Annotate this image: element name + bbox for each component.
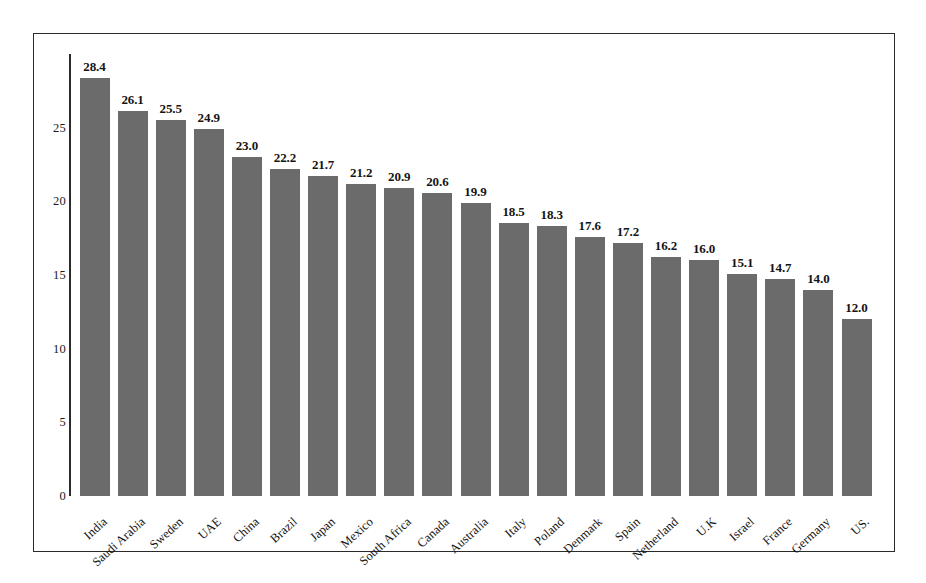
bar-rect — [613, 243, 643, 496]
bar-rect — [80, 78, 110, 496]
bar-value-label: 22.2 — [274, 150, 296, 166]
bar-item: 19.9 — [461, 54, 491, 496]
chart-figure-frame: 0510152025 28.426.125.524.923.022.221.72… — [33, 33, 895, 552]
bar-value-label: 18.5 — [502, 204, 524, 220]
bar-value-label: 14.7 — [769, 260, 791, 276]
x-axis-category-label-text: Italy — [502, 515, 529, 542]
bar-value-label: 17.2 — [617, 224, 639, 240]
x-axis-category-label-text: UAE — [195, 515, 224, 544]
y-axis-tick-label: 10 — [53, 341, 66, 356]
bar-rect — [270, 169, 300, 496]
bar-value-label: 23.0 — [236, 138, 258, 154]
x-axis-category-label: Sweden — [148, 516, 188, 554]
bar-value-label: 12.0 — [845, 300, 867, 316]
bar-item: 21.2 — [346, 54, 376, 496]
x-axis-category-label: China — [231, 516, 264, 547]
x-axis-category-label: India — [82, 516, 111, 545]
bar-rect — [232, 157, 262, 496]
bar-value-label: 24.9 — [198, 110, 220, 126]
bar-rect — [803, 290, 833, 496]
bar-rect — [194, 129, 224, 496]
bar-value-label: 20.9 — [388, 169, 410, 185]
x-axis-category-label-text: US. — [848, 515, 872, 539]
bar-item: 21.7 — [308, 54, 338, 496]
y-axis-tick-label: 25 — [53, 120, 66, 135]
x-axis-category-label: Japan — [309, 516, 341, 547]
bar-item: 20.9 — [384, 54, 414, 496]
bar-value-label: 26.1 — [121, 92, 143, 108]
bar-item: 15.1 — [727, 54, 757, 496]
bar-item: 26.1 — [118, 54, 148, 496]
x-axis-category-label: Italy — [503, 516, 530, 543]
bar-item: 23.0 — [232, 54, 262, 496]
bar-item: 28.4 — [80, 54, 110, 496]
x-axis-category-label-text: Denmark — [560, 515, 605, 558]
x-axis-category-label-text: Sweden — [146, 515, 186, 553]
bar-rect — [689, 260, 719, 496]
bar-rect — [499, 223, 529, 496]
bar-item: 18.5 — [499, 54, 529, 496]
bar-rect — [842, 319, 872, 496]
bar-rect — [156, 120, 186, 496]
bar-rect — [308, 176, 338, 496]
x-axis-category-label-text: India — [81, 515, 110, 544]
bar-rect — [346, 184, 376, 496]
x-axis-category-label: US. — [849, 516, 873, 540]
x-axis-category-label-text: Israel — [727, 515, 758, 545]
bar-item: 17.6 — [575, 54, 605, 496]
bar-value-label: 14.0 — [807, 271, 829, 287]
x-axis-category-label: Israel — [728, 516, 759, 546]
bar-rect — [384, 188, 414, 496]
x-axis-category-label-text: Australia — [446, 515, 491, 557]
x-axis-category-label-text: U.K — [694, 515, 720, 541]
bar-value-label: 16.0 — [693, 241, 715, 257]
bar-rect — [765, 279, 795, 496]
bar-item: 14.0 — [803, 54, 833, 496]
bar-item: 17.2 — [613, 54, 643, 496]
bar-value-label: 20.6 — [426, 174, 448, 190]
x-axis-category-label-text: Japan — [307, 515, 339, 546]
bar-rect — [422, 193, 452, 497]
bar-value-label: 28.4 — [83, 59, 105, 75]
bar-item: 24.9 — [194, 54, 224, 496]
bar-value-label: 19.9 — [464, 184, 486, 200]
bar-rect — [727, 274, 757, 496]
x-axis-category-label: Brazil — [269, 516, 302, 548]
bar-item: 22.2 — [270, 54, 300, 496]
y-axis-tick-label: 0 — [60, 489, 66, 504]
x-axis-category-label-text: Spain — [612, 515, 644, 546]
x-axis-category-label: Denmark — [562, 516, 607, 559]
y-axis-tick-label: 15 — [53, 268, 66, 283]
x-axis-category-label: Australia — [448, 516, 493, 558]
bar-value-label: 17.6 — [579, 218, 601, 234]
x-axis-category-label: Germany — [790, 516, 835, 559]
bar-value-label: 25.5 — [160, 101, 182, 117]
bar-rect — [461, 203, 491, 496]
x-axis-category-label-text: Brazil — [268, 515, 301, 547]
bar-value-label: 21.7 — [312, 157, 334, 173]
x-axis-category-label-text: China — [230, 515, 263, 546]
bar-item: 16.2 — [651, 54, 681, 496]
y-axis-tick-label: 5 — [60, 415, 66, 430]
bar-series: 28.426.125.524.923.022.221.721.220.920.6… — [71, 54, 881, 496]
bar-rect — [651, 257, 681, 496]
y-axis-tick-label: 20 — [53, 194, 66, 209]
bar-item: 16.0 — [689, 54, 719, 496]
bar-rect — [575, 237, 605, 496]
bar-value-label: 18.3 — [541, 207, 563, 223]
bar-value-label: 15.1 — [731, 255, 753, 271]
x-axis-category-label-text: Germany — [789, 515, 834, 558]
x-axis-category-label: UAE — [196, 516, 225, 545]
bar-item: 25.5 — [156, 54, 186, 496]
x-axis-category-label: U.K — [695, 516, 721, 542]
plot-area: 0510152025 28.426.125.524.923.022.221.72… — [69, 54, 881, 516]
bar-item: 14.7 — [765, 54, 795, 496]
bar-value-label: 21.2 — [350, 165, 372, 181]
bar-rect — [537, 226, 567, 496]
bar-value-label: 16.2 — [655, 238, 677, 254]
bar-item: 20.6 — [422, 54, 452, 496]
bar-item: 12.0 — [842, 54, 872, 496]
y-axis-tick-labels: 0510152025 — [36, 54, 66, 496]
bar-rect — [118, 111, 148, 496]
bar-item: 18.3 — [537, 54, 567, 496]
